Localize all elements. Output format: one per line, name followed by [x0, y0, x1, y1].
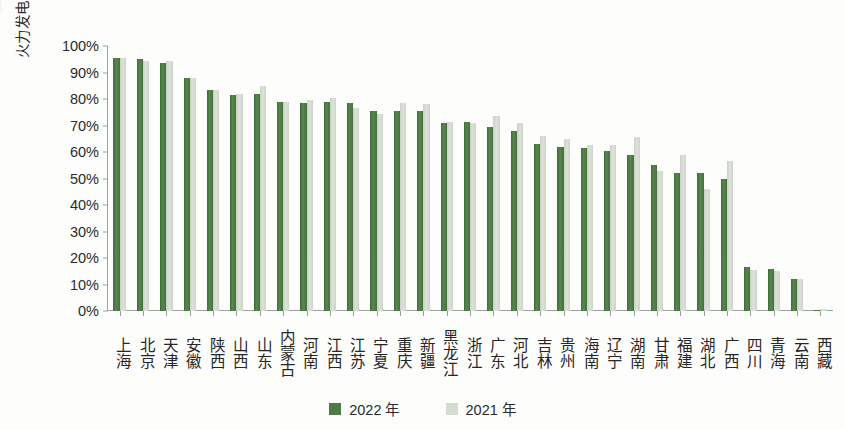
- legend-swatch: [446, 403, 458, 415]
- bar[interactable]: [260, 86, 266, 311]
- legend-item[interactable]: 2021 年: [446, 398, 516, 419]
- y-axis-tick-label: 100%: [62, 38, 108, 54]
- bar-group[interactable]: [528, 46, 551, 311]
- bar-group[interactable]: [178, 46, 201, 311]
- y-axis-title: 火力发电量占本地总发电量的比重: [12, 0, 34, 58]
- bar-group[interactable]: [388, 46, 411, 311]
- bar-group[interactable]: [622, 46, 645, 311]
- bar[interactable]: [190, 78, 196, 311]
- bar[interactable]: [587, 145, 593, 311]
- bar[interactable]: [307, 100, 313, 311]
- bar-group[interactable]: [785, 46, 808, 311]
- bar[interactable]: [564, 139, 570, 311]
- bar[interactable]: [283, 102, 289, 311]
- bar-group[interactable]: [599, 46, 622, 311]
- x-axis-tick-label: 甘肃: [645, 315, 668, 391]
- bar[interactable]: [680, 155, 686, 311]
- bar[interactable]: [120, 58, 126, 311]
- x-axis-tick-label: 江苏: [342, 315, 365, 391]
- x-axis-tick-label: 宁夏: [365, 315, 388, 391]
- x-axis-tick-label: 湖北: [692, 315, 715, 391]
- bar-group[interactable]: [342, 46, 365, 311]
- x-axis-tick-label: 上海: [108, 315, 131, 391]
- bar[interactable]: [166, 61, 172, 311]
- bar[interactable]: [353, 108, 359, 311]
- bar-group[interactable]: [225, 46, 248, 311]
- bar-group[interactable]: [762, 46, 785, 311]
- bar-group[interactable]: [669, 46, 692, 311]
- bar[interactable]: [727, 161, 733, 311]
- bar-group[interactable]: [739, 46, 762, 311]
- bar[interactable]: [143, 61, 149, 311]
- bar[interactable]: [470, 123, 476, 311]
- bar-group[interactable]: [575, 46, 598, 311]
- bar[interactable]: [704, 189, 710, 311]
- bar-group-container: [108, 46, 832, 311]
- bar[interactable]: [400, 103, 406, 311]
- bar-group[interactable]: [482, 46, 505, 311]
- x-axis-tick-label: 北京: [131, 315, 154, 391]
- x-axis-tick-label: 青海: [762, 315, 785, 391]
- x-axis-tick-label: 福建: [669, 315, 692, 391]
- legend-label: 2021 年: [466, 398, 516, 419]
- bar[interactable]: [236, 94, 242, 311]
- bar-group[interactable]: [365, 46, 388, 311]
- bar[interactable]: [330, 98, 336, 311]
- x-axis-tick-label: 浙江: [458, 315, 481, 391]
- bar[interactable]: [517, 123, 523, 311]
- bar-group[interactable]: [248, 46, 271, 311]
- bar-group[interactable]: [692, 46, 715, 311]
- x-axis-label-group: 上海北京天津安徽陕西山西山东内蒙古河南江西江苏宁夏重庆新疆黑龙江浙江广东河北吉林…: [108, 315, 832, 393]
- legend-label: 2022 年: [349, 398, 399, 419]
- bar[interactable]: [493, 116, 499, 311]
- x-axis-tick-label: 湖南: [622, 315, 645, 391]
- bar-group[interactable]: [552, 46, 575, 311]
- bar[interactable]: [797, 279, 803, 311]
- bar-group[interactable]: [412, 46, 435, 311]
- x-axis-tick-label: 新疆: [412, 315, 435, 391]
- x-axis-tick-label: 海南: [575, 315, 598, 391]
- bar-group[interactable]: [645, 46, 668, 311]
- legend-item[interactable]: 2022 年: [329, 398, 399, 419]
- bar-group[interactable]: [108, 46, 131, 311]
- x-axis-tick-label: 重庆: [388, 315, 411, 391]
- bar-group[interactable]: [505, 46, 528, 311]
- bar[interactable]: [377, 114, 383, 311]
- bar[interactable]: [213, 90, 219, 311]
- bar[interactable]: [540, 136, 546, 311]
- x-axis-tick-label: 吉林: [528, 315, 551, 391]
- bar[interactable]: [750, 270, 756, 311]
- bar[interactable]: [447, 122, 453, 311]
- x-axis-tick-label: 贵州: [552, 315, 575, 391]
- bar-group[interactable]: [155, 46, 178, 311]
- x-axis-tick-label: 天津: [155, 315, 178, 391]
- bar[interactable]: [423, 104, 429, 311]
- x-axis-tick-label: 广西: [715, 315, 738, 391]
- bar-group[interactable]: [809, 46, 832, 311]
- bar-chart: 火力发电量占本地总发电量的比重 0%10%20%30%40%50%60%70%8…: [0, 0, 845, 429]
- x-axis-tick-label: 山西: [225, 315, 248, 391]
- bar-group[interactable]: [715, 46, 738, 311]
- x-axis-tick-label: 河北: [505, 315, 528, 391]
- x-axis-tick-label: 黑龙江: [435, 315, 458, 391]
- bar[interactable]: [774, 271, 780, 311]
- legend-swatch: [329, 403, 341, 415]
- bar-group[interactable]: [318, 46, 341, 311]
- bar-group[interactable]: [131, 46, 154, 311]
- bar-group[interactable]: [458, 46, 481, 311]
- plot-area: 0%10%20%30%40%50%60%70%80%90%100%: [108, 46, 832, 311]
- bar-group[interactable]: [272, 46, 295, 311]
- bar[interactable]: [634, 137, 640, 311]
- bar-group[interactable]: [201, 46, 224, 311]
- x-axis-tick-label: 山东: [248, 315, 271, 391]
- bar-group[interactable]: [295, 46, 318, 311]
- x-axis-tick-label: 安徽: [178, 315, 201, 391]
- x-axis-tick-label: 江西: [318, 315, 341, 391]
- chart-legend: 2022 年2021 年: [0, 398, 845, 419]
- bar[interactable]: [610, 145, 616, 311]
- x-axis-tick-label: 内蒙古: [272, 315, 295, 391]
- bar-group[interactable]: [435, 46, 458, 311]
- x-axis-tick-label: 广东: [482, 315, 505, 391]
- bar[interactable]: [657, 171, 663, 311]
- x-axis-tick-label: 西藏: [809, 315, 832, 391]
